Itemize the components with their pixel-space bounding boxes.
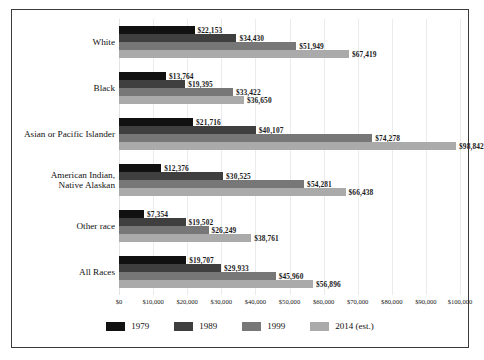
bar[interactable] xyxy=(119,280,313,288)
gridline xyxy=(392,19,393,295)
bar[interactable] xyxy=(119,118,193,126)
x-tick-label: $10,000 xyxy=(142,298,163,305)
gridline xyxy=(426,19,427,295)
x-tick-label: $80,000 xyxy=(381,298,402,305)
gridline xyxy=(187,19,188,295)
bar-row: $22,153 xyxy=(119,26,460,34)
x-tick-label: $60,000 xyxy=(313,298,334,305)
category-label-line: Other race xyxy=(12,221,115,232)
bar[interactable] xyxy=(119,256,186,264)
bar[interactable] xyxy=(119,50,349,58)
legend-label: 1979 xyxy=(131,321,149,331)
bar-row: $12,376 xyxy=(119,164,460,172)
category-axis: WhiteBlackAsian or Pacific IslanderAmeri… xyxy=(12,19,115,295)
category-label: Asian or Pacific Islander xyxy=(12,129,115,140)
bar-row: $74,278 xyxy=(119,134,460,142)
bar[interactable] xyxy=(119,42,296,50)
bar[interactable] xyxy=(119,80,185,88)
category-label-line: All Races xyxy=(12,267,115,278)
x-tick-label: $0 xyxy=(116,298,123,305)
category-label-line: Black xyxy=(12,83,115,94)
bar-value-label: $38,761 xyxy=(254,234,279,243)
legend-swatch xyxy=(310,322,329,331)
legend-item[interactable]: 1989 xyxy=(174,321,217,331)
bar[interactable] xyxy=(119,134,372,142)
bar-row: $26,249 xyxy=(119,226,460,234)
x-tick-label: $100,000 xyxy=(448,298,473,305)
bar-group: $21,716$40,107$74,278$98,842 xyxy=(119,118,460,150)
bar-row: $45,960 xyxy=(119,272,460,280)
bar[interactable] xyxy=(119,226,209,234)
category-label: Other race xyxy=(12,221,115,232)
gridline xyxy=(221,19,222,295)
value-axis: $0$10,000$20,000$30,000$40,000$50,000$60… xyxy=(119,298,460,312)
bar-row: $98,842 xyxy=(119,142,460,150)
bar[interactable] xyxy=(119,34,236,42)
legend-item[interactable]: 2014 (est.) xyxy=(310,321,374,331)
gridline xyxy=(153,19,154,295)
x-tick-label: $90,000 xyxy=(415,298,436,305)
category-label: All Races xyxy=(12,267,115,278)
bar[interactable] xyxy=(119,188,346,196)
bar[interactable] xyxy=(119,126,256,134)
bar-row: $54,281 xyxy=(119,180,460,188)
bar-group: $12,376$30,525$54,281$66,438 xyxy=(119,164,460,196)
bar-row: $34,430 xyxy=(119,34,460,42)
bar[interactable] xyxy=(119,172,223,180)
category-label: Black xyxy=(12,83,115,94)
category-label: American Indian,Native Alaskan xyxy=(12,170,115,191)
bar-group: $13,764$19,395$33,422$36,650 xyxy=(119,72,460,104)
bar[interactable] xyxy=(119,142,456,150)
bar-value-label: $98,842 xyxy=(459,142,484,151)
bar[interactable] xyxy=(119,164,161,172)
x-tick-label: $40,000 xyxy=(245,298,266,305)
bar[interactable] xyxy=(119,26,195,34)
bar-value-label: $67,419 xyxy=(352,50,377,59)
legend-item[interactable]: 1979 xyxy=(106,321,149,331)
bar-row: $38,761 xyxy=(119,234,460,242)
bar[interactable] xyxy=(119,272,276,280)
legend-item[interactable]: 1999 xyxy=(242,321,285,331)
bar[interactable] xyxy=(119,72,166,80)
legend-label: 1999 xyxy=(267,321,285,331)
bar-row: $19,502 xyxy=(119,218,460,226)
bar-row: $67,419 xyxy=(119,50,460,58)
bar[interactable] xyxy=(119,88,233,96)
bar[interactable] xyxy=(119,210,144,218)
bar-row: $36,650 xyxy=(119,96,460,104)
plot-area: $22,153$34,430$51,949$67,419$13,764$19,3… xyxy=(119,19,460,295)
bar-row: $56,896 xyxy=(119,280,460,288)
bar-group: $19,707$29,933$45,960$56,896 xyxy=(119,256,460,288)
bar[interactable] xyxy=(119,218,186,226)
x-tick-label: $20,000 xyxy=(176,298,197,305)
bar-value-label: $36,650 xyxy=(247,96,272,105)
bar-group: $7,354$19,502$26,249$38,761 xyxy=(119,210,460,242)
category-label-line: Native Alaskan xyxy=(12,180,115,191)
legend-swatch xyxy=(174,322,193,331)
bar-row: $13,764 xyxy=(119,72,460,80)
bar-row: $51,949 xyxy=(119,42,460,50)
bar[interactable] xyxy=(119,264,221,272)
category-label-line: White xyxy=(12,37,115,48)
bar-row: $19,395 xyxy=(119,80,460,88)
bar-value-label: $66,438 xyxy=(349,188,374,197)
gridline xyxy=(460,19,461,295)
bar[interactable] xyxy=(119,96,244,104)
gridline xyxy=(324,19,325,295)
category-label-line: Asian or Pacific Islander xyxy=(12,129,115,140)
x-tick-label: $70,000 xyxy=(347,298,368,305)
legend-label: 1989 xyxy=(199,321,217,331)
bar-row: $30,525 xyxy=(119,172,460,180)
gridline xyxy=(290,19,291,295)
bar-row: $19,707 xyxy=(119,256,460,264)
category-label: White xyxy=(12,37,115,48)
legend-label: 2014 (est.) xyxy=(335,321,374,331)
bar-row: $21,716 xyxy=(119,118,460,126)
bar[interactable] xyxy=(119,234,251,242)
category-label-line: American Indian, xyxy=(12,170,115,181)
gridline xyxy=(255,19,256,295)
chart-figure: WhiteBlackAsian or Pacific IslanderAmeri… xyxy=(11,9,469,348)
bar[interactable] xyxy=(119,180,304,188)
bar-row: $33,422 xyxy=(119,88,460,96)
bar-row: $7,354 xyxy=(119,210,460,218)
